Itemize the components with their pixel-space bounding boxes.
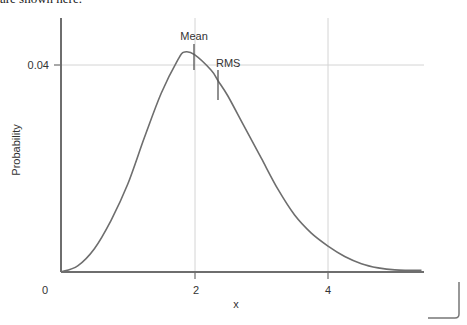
page-corner-mark	[428, 282, 459, 318]
mean-label: Mean	[180, 30, 208, 42]
distribution-curve	[61, 52, 422, 272]
y-tick-label-004: 0.04	[28, 59, 49, 71]
chart: 0.04 0 2 4 x Probability Mean RMS	[0, 0, 467, 325]
x-axis-title: x	[233, 298, 239, 310]
rms-label: RMS	[216, 57, 240, 69]
x-tick-label-2: 2	[193, 284, 199, 296]
y-axis-title: Probability	[10, 124, 22, 176]
x-tick-label-0: 0	[42, 284, 48, 296]
x-tick-label-4: 4	[325, 284, 331, 296]
